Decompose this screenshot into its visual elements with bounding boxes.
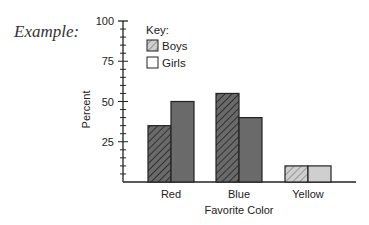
legend-label-girls: Girls [162,57,186,69]
y-axis-label: Percent [80,91,92,129]
bar-yellow-girls [308,166,331,182]
bar-chart: 255075100PercentFavorite Color RedBlueYe… [0,0,369,225]
x-tick-label: Red [161,188,181,200]
x-axis-label: Favorite Color [204,204,273,216]
bar-yellow-boys [285,166,308,182]
bar-red-girls [171,102,194,183]
legend-title: Key: [146,24,169,36]
x-tick-label: Blue [228,188,250,200]
bar-red-boys [148,126,171,182]
y-tick-label: 100 [96,15,114,27]
legend-swatch-boys [147,40,158,51]
bar-blue-girls [239,118,262,182]
legend-label-boys: Boys [162,40,188,52]
legend-swatch-girls [147,57,158,68]
x-tick-label: Yellow [292,188,323,200]
bars: RedBlueYellow [148,93,331,200]
bar-blue-boys [216,93,239,182]
legend: Key:BoysGirls [146,24,188,69]
y-tick-label: 25 [102,136,114,148]
y-tick-label: 75 [102,55,114,67]
y-tick-label: 50 [102,96,114,108]
